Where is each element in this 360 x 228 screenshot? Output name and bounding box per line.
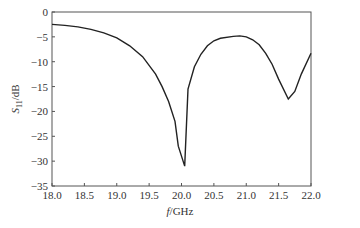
x-tick-label: 21.0: [237, 189, 257, 201]
x-tick-label: 18.5: [75, 189, 95, 201]
s11-curve: [52, 24, 311, 166]
y-tick-label: −25: [31, 130, 49, 142]
plot-frame: [52, 12, 311, 186]
y-tick-label: −30: [31, 155, 49, 167]
x-tick-label: 20.5: [204, 189, 224, 201]
y-tick-label: −35: [31, 180, 49, 192]
y-tick-label: 0: [43, 6, 49, 18]
x-axis-label: f/GHz: [167, 205, 194, 217]
s11-chart: 18.018.519.019.520.020.521.021.522.00−5−…: [0, 0, 360, 228]
axes: [52, 12, 311, 186]
x-tick-label: 19.0: [107, 189, 127, 201]
x-tick-label: 22.0: [301, 189, 321, 201]
y-tick-label: −5: [36, 31, 48, 43]
y-axis-label: S11/dB: [9, 84, 24, 113]
ticks: 18.018.519.019.520.020.521.021.522.00−5−…: [31, 6, 321, 201]
x-tick-label: 19.5: [140, 189, 160, 201]
x-tick-label: 21.5: [269, 189, 289, 201]
y-tick-label: −15: [31, 81, 49, 93]
y-tick-label: −20: [31, 105, 49, 117]
x-tick-label: 20.0: [172, 189, 192, 201]
y-tick-label: −10: [31, 56, 49, 68]
